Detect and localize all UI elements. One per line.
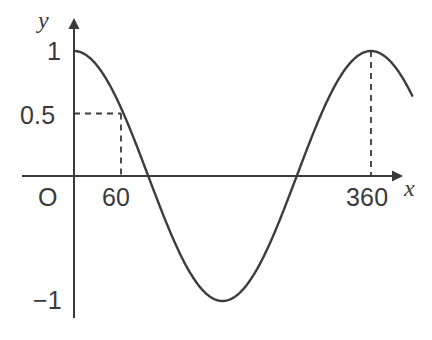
y-tick-label-0.5: 0.5 xyxy=(20,103,55,128)
y-axis-arrowhead xyxy=(69,18,80,29)
y-tick-label-1: 1 xyxy=(47,39,61,64)
origin-label: O xyxy=(38,185,58,210)
cosine-graph-figure: y x 1 0.5 −1 O 60 360 xyxy=(0,0,432,340)
plot-canvas xyxy=(0,0,432,340)
y-axis-label: y xyxy=(38,8,49,32)
x-tick-label-60: 60 xyxy=(102,185,130,210)
x-axis-arrowhead xyxy=(392,171,403,182)
x-tick-label-360: 360 xyxy=(346,185,388,210)
y-tick-label-negative-1: −1 xyxy=(33,288,62,313)
x-axis-label: x xyxy=(404,176,415,200)
x-axis xyxy=(22,171,403,182)
y-axis xyxy=(69,18,80,318)
